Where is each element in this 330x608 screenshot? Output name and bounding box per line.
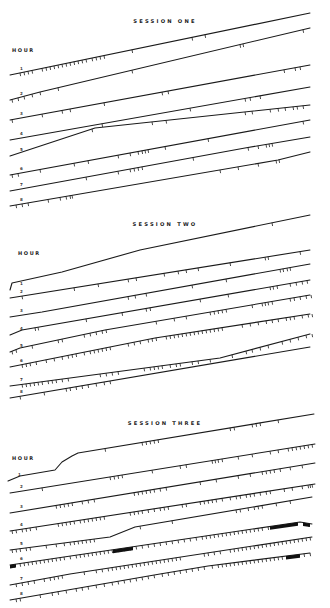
hour-number: 1 [20, 66, 23, 71]
hour-number: 3 [20, 111, 23, 116]
hour-number: 6 [20, 166, 23, 171]
hour-number: 3 [20, 308, 23, 313]
hour-number: 8 [20, 389, 23, 394]
session-title: SESSION TWO [133, 221, 198, 227]
hour-number: 5 [20, 147, 23, 152]
hour-number: 8 [20, 197, 23, 202]
hour-number: 4 [20, 522, 23, 527]
hour-number: 5 [20, 541, 23, 546]
hour-number: 6 [20, 358, 23, 363]
hour-number: 8 [20, 591, 23, 596]
hour-number: 2 [20, 484, 23, 489]
hour-axis-label: HOUR [18, 250, 41, 256]
hour-number: 7 [20, 576, 23, 581]
hour-number: 6 [20, 556, 23, 561]
session-title: SESSION THREE [128, 420, 203, 426]
hour-number: 4 [20, 131, 23, 136]
hour-axis-label: HOUR [12, 455, 35, 461]
hour-number: 2 [20, 289, 23, 294]
hour-number: 7 [20, 182, 23, 187]
hour-number: 7 [20, 377, 23, 382]
hour-number: 3 [20, 504, 23, 509]
hour-number: 1 [20, 281, 23, 286]
session-title: SESSION ONE [133, 18, 197, 24]
hour-number: 2 [20, 91, 23, 96]
hour-number: 5 [20, 343, 23, 348]
hour-number: 1 [18, 472, 21, 477]
hour-axis-label: HOUR [12, 47, 35, 53]
cumulative-record-figure: SESSION ONEHOUR12345678SESSION TWOHOUR12… [0, 0, 330, 608]
hour-number: 4 [20, 326, 23, 331]
